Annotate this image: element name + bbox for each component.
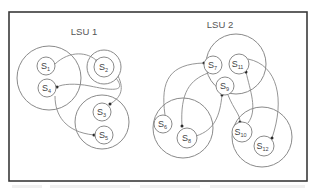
- edge-s1-to-s2: [55, 54, 97, 64]
- state-node-s12: S12: [254, 136, 274, 156]
- arrowhead-icon: [181, 125, 184, 128]
- state-node-s5: S5: [95, 126, 113, 144]
- state-node-s1: S1: [37, 57, 55, 75]
- bleed-through-text: [12, 185, 305, 188]
- state-node-s3: S3: [93, 103, 111, 121]
- state-node-s10: S10: [232, 122, 252, 142]
- edge-s10-to-s11: [246, 72, 253, 123]
- lsu-2-label: LSU 2: [207, 19, 233, 30]
- state-node-s8: S8: [177, 128, 197, 148]
- edge-s7-to-s8: [182, 73, 208, 126]
- group-circles: [17, 34, 292, 167]
- state-node-s7: S7: [204, 56, 222, 74]
- edge-s2-to-s3: [110, 76, 121, 104]
- state-node-s2: S2: [94, 57, 114, 77]
- edge-s6-to-s7: [164, 63, 204, 115]
- edge-s11-to-s12: [248, 59, 278, 138]
- group-circle-g1: [17, 46, 81, 110]
- lsu-1-label: LSU 1: [71, 26, 97, 37]
- state-node-s9: S9: [216, 77, 234, 95]
- arrowhead-icon: [109, 103, 112, 106]
- state-node-s11: S11: [229, 54, 249, 74]
- edge-s8-to-s9: [196, 95, 222, 136]
- edge-s2-to-s4: [57, 78, 120, 89]
- state-node-s4: S4: [38, 79, 56, 97]
- state-node-s6: S6: [154, 115, 172, 133]
- edge-s4-to-s5: [55, 96, 94, 135]
- diagram-canvas: S1S4S2S3S5S7S11S9S6S8S10S12 LSU 1 LSU 2: [0, 0, 314, 194]
